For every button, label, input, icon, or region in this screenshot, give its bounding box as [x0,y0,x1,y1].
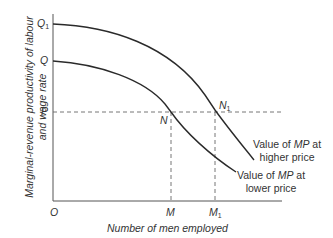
curve-higher-price [53,24,254,160]
label-higher-price: Value of MP at higher price [253,138,321,164]
point-n: N [160,114,168,126]
tick-m1: M1 [209,206,222,219]
origin-label: O [50,206,58,218]
label-lower-price: Value of MP at lower price [237,169,305,195]
tick-p: P [41,105,48,117]
point-n1: N1 [219,99,231,112]
tick-q1: Q1 [37,17,49,30]
tick-q: Q [40,54,48,66]
x-axis-label: Number of men employed [107,222,228,234]
tick-m: M [166,206,175,218]
curve-lower-price [53,61,236,172]
y-axis-label-line1: Marginal-revenue productivity of labour [23,7,36,207]
